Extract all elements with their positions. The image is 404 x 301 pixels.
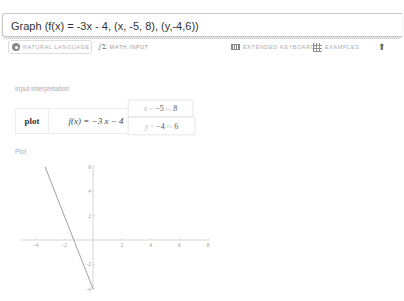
x-tick-label: 6: [178, 242, 181, 248]
math-input-label: MATH INPUT: [110, 44, 149, 50]
y-tick-label: 2: [88, 213, 91, 219]
y-tick-label: 6: [88, 164, 91, 170]
query-input[interactable]: [11, 18, 391, 33]
input-toolbar: NATURAL LANGUAGE ∫Σ MATH INPUT EXTENDED …: [0, 40, 404, 56]
command-cell: plot: [15, 108, 49, 134]
y-tick-label: 4: [88, 188, 91, 194]
extended-keyboard-label: EXTENDED KEYBOARD: [243, 44, 315, 50]
grid-icon: [313, 43, 322, 52]
extended-keyboard-button[interactable]: EXTENDED KEYBOARD: [231, 40, 315, 54]
function-line: [45, 167, 93, 289]
plot-ticks: −4−22468642−2−4: [32, 164, 209, 292]
keyboard-icon: [231, 44, 240, 50]
natural-language-label: NATURAL LANGUAGE: [23, 44, 90, 50]
x-tick-label: 4: [149, 242, 152, 248]
plot-axes: [21, 166, 209, 290]
math-input-button[interactable]: ∫Σ MATH INPUT: [98, 40, 149, 54]
x-tick-label: −4: [32, 242, 38, 248]
function-plot: −4−22468642−2−4: [0, 160, 230, 301]
input-interpretation-heading: Input interpretation: [15, 85, 69, 92]
y-tick-label: −2: [85, 261, 91, 267]
y-range-cell: y = −4 to 6: [128, 117, 195, 135]
x-tick-label: 2: [120, 242, 123, 248]
examples-label: EXAMPLES: [325, 44, 359, 50]
plot-heading: Plot: [15, 148, 26, 155]
upload-button[interactable]: ⬆: [378, 40, 386, 54]
sigma-icon: ∫Σ: [98, 43, 107, 51]
natural-language-button[interactable]: NATURAL LANGUAGE: [8, 40, 92, 54]
query-input-box[interactable]: [2, 13, 402, 37]
x-tick-label: 8: [207, 242, 210, 248]
y-tick-label: −4: [85, 286, 91, 292]
examples-button[interactable]: EXAMPLES: [313, 40, 359, 54]
plot-series: [45, 167, 93, 289]
x-range-cell: x = −5 to 8: [128, 100, 193, 117]
x-tick-label: −2: [61, 242, 67, 248]
gear-icon: [12, 43, 20, 51]
query-divider: [4, 38, 399, 39]
plot-canvas: −4−22468642−2−4: [0, 160, 230, 301]
upload-icon: ⬆: [378, 42, 386, 52]
